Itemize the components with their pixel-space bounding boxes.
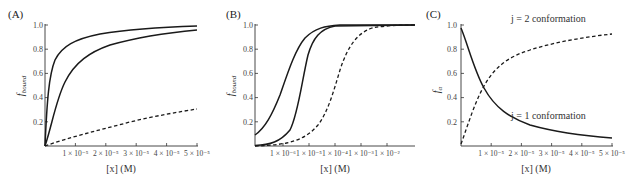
y-tick-label: 0.8 <box>33 45 43 54</box>
panel-a-curve-high-affinity <box>45 26 197 146</box>
panel-b-x-ticks: 1 × 10⁻⁶ 1 × 10⁻⁵ 1 × 10⁻⁴ 1 × 10⁻³ 1 × … <box>270 143 400 158</box>
x-tick-label: 5 × 10⁻⁵ <box>599 149 625 158</box>
figure: (A) 0.2 0.4 0.6 0.8 1.0 1 × 10⁻⁵ 2 × 10⁻… <box>0 0 642 182</box>
panel-a-label: (A) <box>8 8 24 21</box>
x-tick-label: 2 × 10⁻⁵ <box>93 149 119 158</box>
panel-c-y-ticks: 0.2 0.4 0.6 0.8 1.0 <box>447 21 464 127</box>
panel-b-y-ticks: 0.2 0.4 0.6 0.8 1.0 <box>243 21 258 127</box>
panel-a-y-title: fbound <box>15 75 28 96</box>
x-tick-label: 4 × 10⁻⁵ <box>154 149 180 158</box>
x-tick-label: 1 × 10⁻⁴ <box>322 149 348 158</box>
panel-b-curve-medium-affinity <box>255 25 415 146</box>
y-tick-label: 0.6 <box>33 69 43 78</box>
panel-a-x-ticks: 1 × 10⁻⁵ 2 × 10⁻⁵ 3 × 10⁻⁵ 4 × 10⁻⁵ 5 × … <box>62 143 210 158</box>
x-tick-label: 1 × 10⁻³ <box>348 149 374 158</box>
x-tick-label: 3 × 10⁻⁵ <box>123 149 149 158</box>
y-tick-label: 0.8 <box>243 45 253 54</box>
panel-a: (A) 0.2 0.4 0.6 0.8 1.0 1 × 10⁻⁵ 2 × 10⁻… <box>8 8 210 175</box>
y-tick-label: 0.8 <box>447 45 457 54</box>
y-tick-label: 1.0 <box>33 21 43 30</box>
panel-b-curve-high-affinity <box>255 25 415 135</box>
x-tick-label: 1 × 10⁻⁵ <box>478 149 504 158</box>
x-tick-label: 1 × 10⁻² <box>374 149 400 158</box>
x-tick-label: 1 × 10⁻⁵ <box>62 149 88 158</box>
y-tick-label: 0.4 <box>33 93 43 102</box>
y-tick-label: 0.4 <box>243 93 253 102</box>
y-tick-label: 1.0 <box>447 21 457 30</box>
panel-c-x-ticks: 1 × 10⁻⁵ 2 × 10⁻⁵ 3 × 10⁻⁵ 4 × 10⁻⁵ 5 × … <box>478 143 625 158</box>
panel-c-y-title: fα <box>431 86 444 93</box>
panel-c-x-title: [x] (M) <box>521 163 551 175</box>
y-tick-label: 0.4 <box>447 93 457 102</box>
x-tick-label: 1 × 10⁻⁵ <box>296 149 322 158</box>
y-tick-label: 0.2 <box>33 118 43 127</box>
panel-a-y-ticks: 0.2 0.4 0.6 0.8 1.0 <box>33 21 48 127</box>
x-tick-label: 4 × 10⁻⁵ <box>569 149 595 158</box>
x-tick-label: 1 × 10⁻⁶ <box>270 149 296 158</box>
x-tick-label: 2 × 10⁻⁵ <box>508 149 534 158</box>
panel-b-label: (B) <box>226 8 241 21</box>
svg-text:fbound: fbound <box>225 75 238 96</box>
y-tick-label: 1.0 <box>243 21 253 30</box>
annotation-j2-conformation: j = 2 conformation <box>510 13 586 24</box>
y-tick-label: 0.6 <box>447 69 457 78</box>
panel-b: (B) 0.2 0.4 0.6 0.8 1.0 1 × 10⁻⁶ 1 × 10⁻… <box>225 8 415 175</box>
panel-c-label: (C) <box>426 8 441 21</box>
panel-a-curve-low-affinity <box>45 109 197 146</box>
panel-b-y-title: fbound <box>225 75 238 96</box>
y-tick-label: 0.2 <box>243 118 253 127</box>
panel-c: (C) 0.2 0.4 0.6 0.8 1.0 1 × 10⁻⁵ 2 × 10⁻… <box>426 8 625 175</box>
panel-a-curve-medium-affinity <box>45 30 197 146</box>
panel-a-x-title: [x] (M) <box>106 163 136 175</box>
y-tick-label: 0.6 <box>243 69 253 78</box>
x-tick-label: 3 × 10⁻⁵ <box>539 149 565 158</box>
svg-text:fα: fα <box>431 86 444 93</box>
x-tick-label: 5 × 10⁻⁵ <box>184 149 210 158</box>
panel-b-curve-low-affinity <box>255 25 415 146</box>
panel-c-curve-j1 <box>461 28 612 138</box>
panel-b-x-title: [x] (M) <box>320 163 350 175</box>
y-tick-label: 0.2 <box>447 118 457 127</box>
annotation-j1-conformation: j = 1 conformation <box>510 110 586 121</box>
svg-text:fbound: fbound <box>15 75 28 96</box>
